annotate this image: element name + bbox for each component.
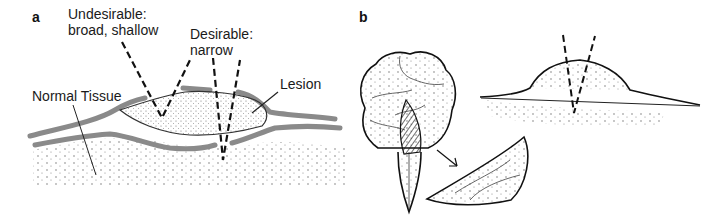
- undesirable-label-line2: broad, shallow: [68, 22, 158, 38]
- lesion-label: Lesion: [280, 76, 321, 92]
- panel-a-illustration: [30, 42, 345, 185]
- panel-a-letter: a: [32, 9, 40, 25]
- desirable-label-line2: narrow: [190, 42, 233, 58]
- normal-tissue-label: Normal Tissue: [32, 88, 121, 104]
- panel-b-letter: b: [359, 9, 368, 25]
- undesirable-label-line1: Undesirable:: [68, 6, 147, 22]
- desirable-label-line1: Desirable:: [190, 26, 253, 42]
- panel-b-illustration: [361, 35, 700, 212]
